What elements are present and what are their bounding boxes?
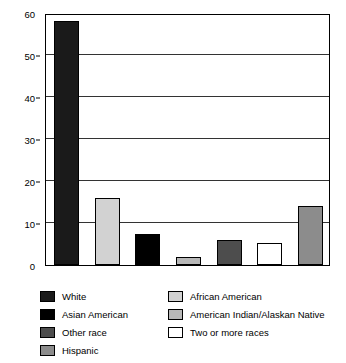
bar-chart-figure: PERCENT OF ALL ADOPTED CHILDREN 01020304… (0, 0, 346, 363)
bar-american-indian-alaskan-native (176, 257, 201, 265)
legend-item-white: White (40, 288, 168, 305)
legend-item-american-indian-alaskan-native: American Indian/Alaskan Native (168, 306, 343, 323)
bars-layer (46, 15, 329, 265)
y-tick-label-40: 40 (24, 93, 35, 104)
legend-swatch-hispanic (40, 345, 55, 356)
y-tick-label-0: 0 (30, 261, 35, 272)
bar-other-race (217, 240, 242, 265)
legend-item-african-american: African American (168, 288, 343, 305)
y-tick-mark-20 (36, 182, 40, 183)
legend-label-other-race: Other race (62, 327, 107, 338)
bar-asian-american (135, 234, 160, 266)
legend-swatch-african-american (168, 291, 183, 302)
y-tick-label-10: 10 (24, 219, 35, 230)
y-axis-tick-labels: 0102030405060 (14, 14, 40, 266)
y-tick-label-30: 30 (24, 135, 35, 146)
legend-item-asian-american: Asian American (40, 306, 168, 323)
legend-label-asian-american: Asian American (62, 309, 128, 320)
bar-african-american (95, 198, 120, 265)
y-tick-mark-30 (36, 140, 40, 141)
bar-hispanic (298, 206, 323, 265)
bar-white (54, 21, 79, 265)
y-tick-label-60: 60 (24, 9, 35, 20)
y-tick-label-20: 20 (24, 177, 35, 188)
legend-column-right: African AmericanAmerican Indian/Alaskan … (168, 288, 343, 342)
bar-two-or-more-races (257, 243, 282, 265)
legend-item-two-or-more-races: Two or more races (168, 324, 343, 341)
y-tick-label-50: 50 (24, 51, 35, 62)
legend-swatch-two-or-more-races (168, 327, 183, 338)
y-tick-mark-10 (36, 224, 40, 225)
legend-label-american-indian-alaskan-native: American Indian/Alaskan Native (190, 309, 325, 320)
legend-swatch-american-indian-alaskan-native (168, 309, 183, 320)
legend-label-two-or-more-races: Two or more races (190, 327, 269, 338)
legend-label-white: White (62, 291, 86, 302)
plot-area (45, 14, 330, 266)
legend-label-african-american: African American (190, 291, 262, 302)
y-tick-mark-50 (36, 56, 40, 57)
legend-swatch-other-race (40, 327, 55, 338)
legend-item-other-race: Other race (40, 324, 168, 341)
legend-label-hispanic: Hispanic (62, 345, 98, 356)
y-tick-mark-40 (36, 98, 40, 99)
legend-swatch-asian-american (40, 309, 55, 320)
legend: WhiteAsian AmericanOther raceHispanic Af… (40, 288, 340, 360)
legend-column-left: WhiteAsian AmericanOther raceHispanic (40, 288, 168, 360)
legend-item-hispanic: Hispanic (40, 342, 168, 359)
legend-swatch-white (40, 291, 55, 302)
